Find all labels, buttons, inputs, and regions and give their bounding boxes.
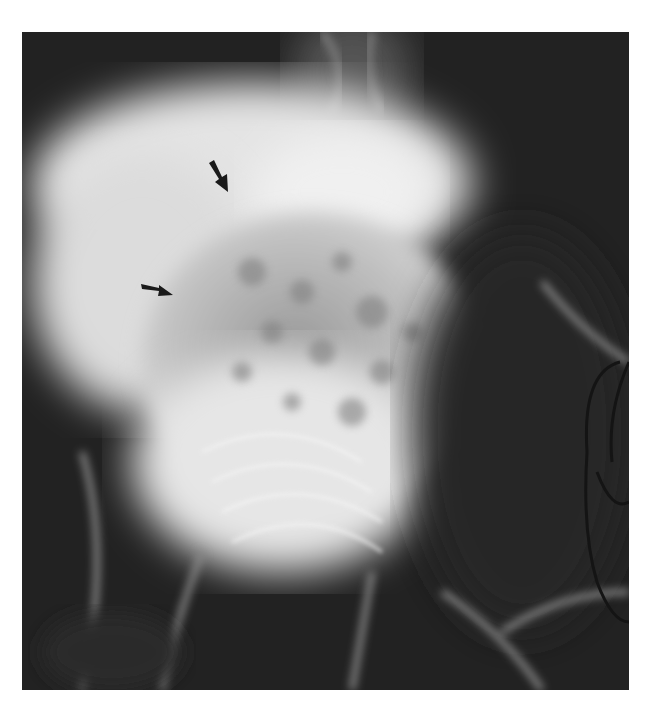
- radiograph-image: [22, 32, 629, 690]
- radiograph-render: [22, 32, 629, 690]
